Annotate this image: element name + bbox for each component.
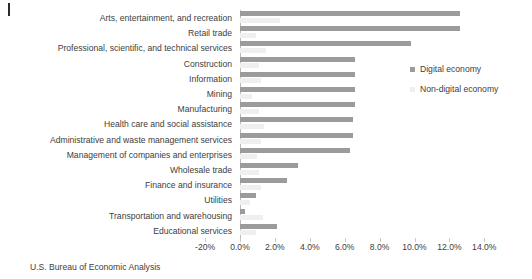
bar-group: [240, 132, 502, 148]
category-label: Educational services: [0, 223, 232, 239]
bar-nondigital: [240, 124, 264, 129]
bar-digital: [240, 57, 355, 62]
legend-label: Digital economy: [420, 64, 481, 74]
category-label: Utilities: [0, 192, 232, 208]
bar-group: [240, 116, 502, 132]
category-label: Arts, entertainment, and recreation: [0, 10, 232, 26]
bar-group: [240, 208, 502, 224]
x-axis: -20%0.0%2.0%4.0%6.0%8.0%10.0%12.0%14.0%: [0, 238, 532, 256]
bar-digital: [240, 72, 355, 77]
legend-item[interactable]: Non-digital economy: [410, 84, 498, 94]
axis-tick-label: 0.0%: [230, 242, 250, 252]
bar-digital: [240, 148, 350, 153]
category-label: Manufacturing: [0, 101, 232, 117]
bar-nondigital: [240, 154, 257, 159]
chart-row: Professional, scientific, and technical …: [0, 40, 532, 56]
bar-digital: [240, 193, 256, 198]
category-label: Health care and social assistance: [0, 116, 232, 132]
chart-row: Utilities: [0, 192, 532, 208]
bar-digital: [240, 163, 298, 168]
bar-digital: [240, 224, 277, 229]
chart-row: Retail trade: [0, 25, 532, 41]
bar-digital: [240, 11, 460, 16]
axis-tick-label: 12.0%: [437, 242, 461, 252]
bar-digital: [240, 87, 355, 92]
bar-digital: [240, 178, 287, 183]
bar-nondigital: [240, 94, 252, 99]
bar-digital: [240, 133, 353, 138]
category-label: Construction: [0, 56, 232, 72]
bar-nondigital: [240, 185, 261, 190]
bar-group: [240, 147, 502, 163]
bar-group: [240, 40, 502, 56]
bar-group: [240, 10, 502, 26]
category-label: Mining: [0, 86, 232, 102]
bar-digital: [240, 209, 245, 214]
legend-item[interactable]: Digital economy: [410, 64, 498, 74]
bar-nondigital: [240, 109, 259, 114]
chart-container: Arts, entertainment, and recreationRetai…: [0, 0, 532, 279]
chart-row: Transportation and warehousing: [0, 208, 532, 224]
bar-nondigital: [240, 18, 280, 23]
axis-tick-label: -20%: [195, 242, 215, 252]
chart-row: Finance and insurance: [0, 177, 532, 193]
category-label: Information: [0, 71, 232, 87]
bar-digital: [240, 41, 411, 46]
chart-row: Health care and social assistance: [0, 116, 532, 132]
category-label: Management of companies and enterprises: [0, 147, 232, 163]
category-label: Transportation and warehousing: [0, 208, 232, 224]
bar-digital: [240, 102, 355, 107]
source-note: U.S. Bureau of Economic Analysis: [30, 262, 160, 272]
category-label: Finance and insurance: [0, 177, 232, 193]
chart-row: Administrative and waste management serv…: [0, 132, 532, 148]
chart-row: Wholesale trade: [0, 162, 532, 178]
bar-group: [240, 162, 502, 178]
axis-tick-label: 4.0%: [300, 242, 320, 252]
bar-nondigital: [240, 170, 259, 175]
category-label: Retail trade: [0, 25, 232, 41]
bar-digital: [240, 26, 460, 31]
bar-digital: [240, 117, 353, 122]
bar-nondigital: [240, 200, 250, 205]
axis-tick-label: 10.0%: [402, 242, 426, 252]
bar-group: [240, 192, 502, 208]
legend-swatch-icon: [410, 67, 415, 72]
category-label: Professional, scientific, and technical …: [0, 40, 232, 56]
bar-group: [240, 177, 502, 193]
axis-tick-label: 2.0%: [265, 242, 285, 252]
axis-tick-label: 14.0%: [472, 242, 496, 252]
legend-label: Non-digital economy: [420, 84, 498, 94]
bar-nondigital: [240, 63, 259, 68]
chart-row: Management of companies and enterprises: [0, 147, 532, 163]
chart-row: Educational services: [0, 223, 532, 239]
bar-nondigital: [240, 215, 263, 220]
bar-nondigital: [240, 48, 266, 53]
category-label: Wholesale trade: [0, 162, 232, 178]
axis-tick-label: 8.0%: [370, 242, 390, 252]
chart-row: Arts, entertainment, and recreation: [0, 10, 532, 26]
bar-group: [240, 25, 502, 41]
bar-nondigital: [240, 230, 256, 235]
axis-tick-label: 6.0%: [335, 242, 355, 252]
category-label: Administrative and waste management serv…: [0, 132, 232, 148]
bar-group: [240, 223, 502, 239]
legend-swatch-icon: [410, 87, 415, 92]
bar-nondigital: [240, 78, 261, 83]
chart-legend: Digital economyNon-digital economy: [410, 64, 498, 104]
bar-nondigital: [240, 33, 256, 38]
bar-nondigital: [240, 139, 261, 144]
